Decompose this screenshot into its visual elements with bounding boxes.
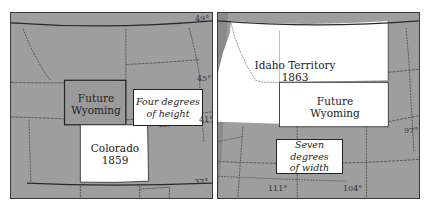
region-label-line2: Wyoming	[280, 107, 390, 119]
map-panel-idaho-territory: Idaho Territory 1863 Future Wyoming Seve…	[217, 12, 420, 199]
region-label-line2: 1863	[240, 71, 350, 83]
callout-line2: of width	[277, 162, 342, 173]
longitude-104-label: 104°	[343, 184, 362, 193]
region-label-line2: 1859	[81, 154, 149, 166]
map-panel-colorado: Future Wyoming Colorado 1859 Four degree…	[10, 12, 213, 199]
region-label-line1: Future	[280, 95, 390, 107]
height-callout: Four degrees of height	[133, 89, 203, 126]
region-label-line1: Colorado	[81, 142, 149, 154]
latitude-41-label: 41°	[199, 115, 213, 124]
width-callout: Seven degrees of width	[276, 139, 343, 174]
longitude-111-label: 111°	[268, 184, 287, 193]
future-wyoming-label: Future Wyoming	[280, 95, 390, 119]
region-label-line1: Idaho Territory	[240, 59, 350, 71]
meridian-97-label: 97°	[404, 126, 418, 135]
colorado-label: Colorado 1859	[81, 142, 149, 166]
idaho-territory-label: Idaho Territory 1863	[240, 59, 350, 83]
latitude-49-label: 49°	[195, 14, 209, 23]
callout-line1: Four degrees	[134, 96, 202, 107]
latitude-37-label: 37°	[194, 177, 208, 186]
callout-line1: Seven degrees	[277, 139, 342, 162]
future-wyoming-label: Future Wyoming	[65, 92, 127, 116]
region-label-line2: Wyoming	[65, 104, 127, 116]
latitude-45-label: 45°	[197, 74, 211, 83]
region-label-line1: Future	[65, 92, 127, 104]
callout-line2: of height	[134, 108, 202, 119]
